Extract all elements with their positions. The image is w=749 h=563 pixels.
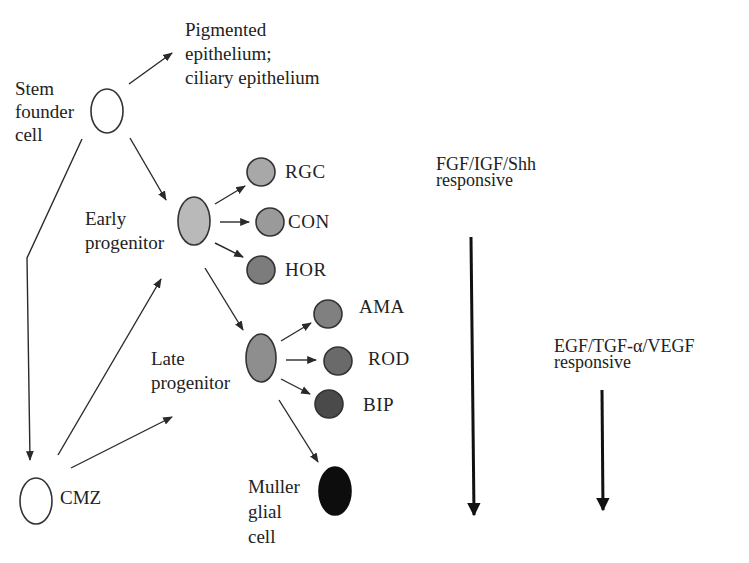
muller-glial-label: Muller glial cell bbox=[248, 474, 300, 549]
con-cell bbox=[256, 208, 284, 236]
rgc-label: RGC bbox=[285, 161, 326, 183]
egf-tgf-vegf-label: EGF/TGF-α/VEGF responsive bbox=[554, 337, 694, 372]
arrow-cmz-to-late bbox=[71, 417, 172, 468]
muller-glial-cell bbox=[319, 467, 351, 515]
arrow-early-to-late bbox=[205, 268, 243, 330]
late-progenitor-label: Late progenitor bbox=[151, 347, 230, 395]
arrow-egf-tgf-vegf bbox=[602, 390, 603, 510]
arrow-early-to-hor bbox=[215, 243, 243, 257]
arrow-early-to-rgc bbox=[215, 186, 245, 204]
bip-label: BIP bbox=[363, 394, 394, 416]
rgc-cell bbox=[247, 158, 275, 186]
con-label: CON bbox=[288, 211, 330, 233]
retinal-lineage-diagram bbox=[0, 0, 749, 563]
late-progenitor-cell bbox=[246, 334, 276, 382]
arrow-stem-to-cmz bbox=[27, 139, 82, 460]
early-progenitor-cell bbox=[178, 197, 210, 245]
early-progenitor-label: Early progenitor bbox=[85, 207, 164, 255]
cmz-label: CMZ bbox=[60, 487, 101, 509]
hor-cell bbox=[247, 256, 275, 284]
hor-label: HOR bbox=[285, 259, 327, 281]
arrow-stem-to-early bbox=[130, 138, 166, 200]
ama-cell bbox=[314, 300, 342, 328]
arrow-late-to-bip bbox=[281, 379, 310, 394]
rod-label: ROD bbox=[368, 348, 410, 370]
arrow-late-to-ama bbox=[281, 323, 311, 341]
cmz-cell bbox=[20, 478, 52, 524]
arrow-fgf-igf-shh bbox=[471, 237, 474, 515]
ama-label: AMA bbox=[359, 296, 405, 318]
arrow-cmz-to-early bbox=[58, 279, 161, 455]
pigmented-epithelium-label: Pigmented epithelium; ciliary epithelium bbox=[185, 18, 320, 90]
bip-cell bbox=[315, 390, 343, 418]
stem-founder-label: Stem founder cell bbox=[15, 77, 74, 146]
rod-cell bbox=[324, 347, 352, 375]
arrow-stem-to-pigmented bbox=[129, 53, 172, 84]
arrow-late-to-muller bbox=[279, 400, 318, 462]
fgf-igf-shh-label: FGF/IGF/Shh responsive bbox=[436, 155, 536, 190]
stem-founder-cell bbox=[91, 89, 123, 133]
